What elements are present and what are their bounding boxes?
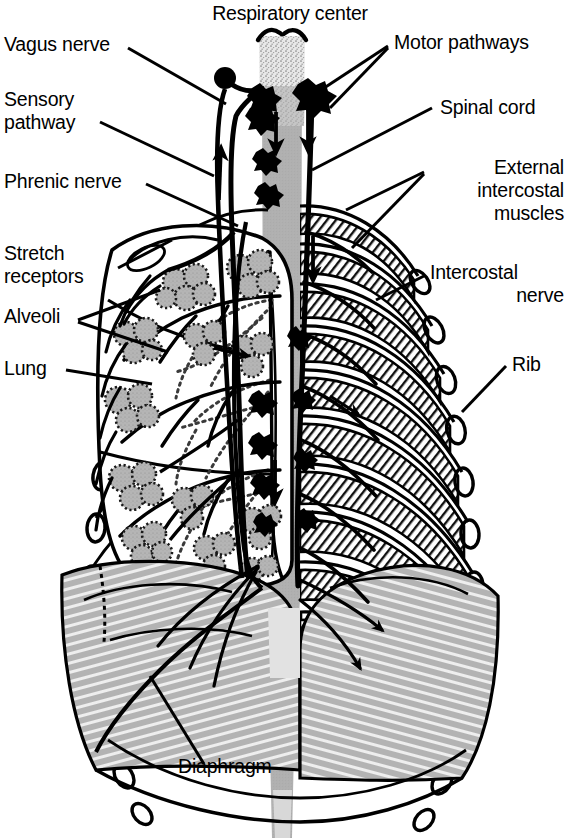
diaphragm-left-dome [62, 561, 300, 770]
label-spinal-cord: Spinal cord [440, 96, 535, 119]
label-external-intercostal-line3: muscles [378, 202, 564, 225]
respiratory-control-diagram: g[data-name="alveoli-clusters"] circle {… [0, 0, 568, 838]
label-external-intercostal-line1: External [378, 156, 564, 179]
leader-rib [462, 366, 506, 412]
label-sensory-pathway-line2: pathway [4, 111, 75, 134]
label-intercostal-nerve-line2: nerve [378, 284, 564, 307]
leader-vagus-nerve [128, 48, 226, 104]
label-external-intercostal-line2: intercostal [378, 179, 564, 202]
figure-canvas: g[data-name="alveoli-clusters"] circle {… [0, 0, 568, 838]
label-rib: Rib [512, 353, 541, 376]
label-vagus-nerve: Vagus nerve [4, 33, 110, 56]
label-motor-pathways: Motor pathways [394, 31, 529, 54]
label-respiratory-center: Respiratory center [160, 2, 420, 25]
sensory-pathway-arrow [219, 148, 221, 200]
label-stretch-receptors-line1: Stretch [4, 242, 64, 265]
label-lung: Lung [4, 357, 47, 380]
label-alveoli: Alveoli [4, 305, 60, 328]
leader-phrenic-nerve [146, 184, 238, 226]
leader-sensory-pathway [100, 122, 214, 176]
diaphragm-right-dome [300, 565, 498, 780]
label-diaphragm: Diaphragm [178, 755, 272, 778]
label-intercostal-nerve-line1: Intercostal [430, 261, 518, 284]
label-sensory-pathway-line1: Sensory [4, 88, 74, 111]
label-stretch-receptors-line2: receptors [4, 265, 84, 288]
diaphragm-aortic-hiatus [268, 608, 300, 678]
label-phrenic-nerve: Phrenic nerve [4, 170, 122, 193]
